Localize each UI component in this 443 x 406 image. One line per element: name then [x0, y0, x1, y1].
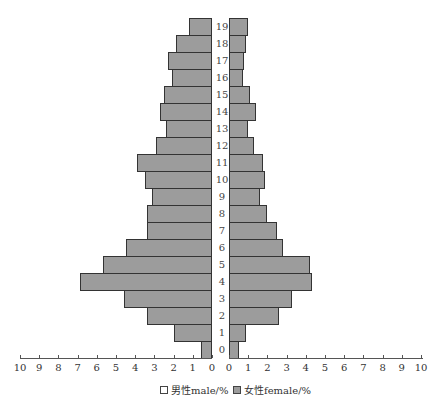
- bar-female: [229, 307, 279, 325]
- age-label: 0: [213, 344, 231, 355]
- x-tick-label: 1: [185, 362, 201, 373]
- x-tick-label: 6: [89, 362, 105, 373]
- x-tick-label: 7: [70, 362, 86, 373]
- x-tick-label: 7: [355, 362, 371, 373]
- x-axis-left: [20, 358, 212, 359]
- x-tick-label: 4: [127, 362, 143, 373]
- bar-male: [172, 69, 212, 87]
- x-tick-label: 2: [259, 362, 275, 373]
- x-tick-label: 10: [413, 362, 429, 373]
- age-label: 18: [213, 38, 231, 49]
- bar-female: [229, 290, 292, 308]
- bar-female: [229, 103, 256, 121]
- bar-male: [152, 188, 212, 206]
- legend-label-male: 男性male/%: [171, 382, 228, 397]
- x-tick-label: 0: [204, 362, 220, 373]
- x-tick: [39, 355, 40, 358]
- x-tick: [174, 355, 175, 358]
- age-label: 17: [213, 55, 231, 66]
- bar-female: [229, 188, 260, 206]
- age-label: 16: [213, 72, 231, 83]
- bar-male: [147, 205, 212, 223]
- x-tick: [421, 355, 422, 358]
- bar-female: [229, 35, 246, 53]
- bar-female: [229, 86, 250, 104]
- x-tick-label: 3: [146, 362, 162, 373]
- bar-male: [164, 86, 212, 104]
- age-label: 3: [213, 293, 231, 304]
- x-tick: [58, 355, 59, 358]
- x-tick: [116, 355, 117, 358]
- x-tick: [287, 355, 288, 358]
- x-tick-label: 8: [50, 362, 66, 373]
- x-tick: [97, 355, 98, 358]
- x-tick: [229, 355, 230, 358]
- bar-female: [229, 324, 246, 342]
- bar-female: [229, 52, 244, 70]
- x-tick-label: 9: [31, 362, 47, 373]
- bar-male: [126, 239, 212, 257]
- bar-male: [174, 324, 212, 342]
- x-tick: [212, 355, 213, 358]
- x-tick-label: 5: [317, 362, 333, 373]
- bar-male: [147, 307, 212, 325]
- x-tick: [383, 355, 384, 358]
- bar-female: [229, 239, 283, 257]
- age-label: 2: [213, 310, 231, 321]
- x-tick: [344, 355, 345, 358]
- age-label: 19: [213, 21, 231, 32]
- legend-item-female: 女性female/%: [233, 382, 311, 397]
- bar-male: [137, 154, 212, 172]
- age-label: 7: [213, 225, 231, 236]
- legend-swatch-female: [233, 386, 241, 394]
- x-tick-label: 10: [12, 362, 28, 373]
- bar-male: [201, 341, 212, 359]
- bar-male: [176, 35, 212, 53]
- age-label: 6: [213, 242, 231, 253]
- bar-male: [166, 120, 212, 138]
- age-label: 14: [213, 106, 231, 117]
- x-tick-label: 1: [240, 362, 256, 373]
- bar-female: [229, 171, 265, 189]
- x-tick: [135, 355, 136, 358]
- bar-female: [229, 205, 267, 223]
- bar-female: [229, 18, 248, 36]
- bar-female: [229, 137, 254, 155]
- bar-male: [124, 290, 212, 308]
- bar-female: [229, 256, 310, 274]
- x-tick-label: 9: [394, 362, 410, 373]
- x-tick: [154, 355, 155, 358]
- age-label: 11: [213, 157, 231, 168]
- bar-male: [145, 171, 212, 189]
- x-tick: [325, 355, 326, 358]
- bar-male: [103, 256, 212, 274]
- x-tick-label: 5: [108, 362, 124, 373]
- age-label: 12: [213, 140, 231, 151]
- bar-female: [229, 120, 248, 138]
- age-label: 9: [213, 191, 231, 202]
- bar-female: [229, 69, 243, 87]
- x-tick-label: 2: [166, 362, 182, 373]
- age-label: 10: [213, 174, 231, 185]
- x-tick: [306, 355, 307, 358]
- x-tick: [193, 355, 194, 358]
- age-label: 4: [213, 276, 231, 287]
- legend-item-male: 男性male/%: [160, 382, 228, 397]
- bar-female: [229, 154, 263, 172]
- bar-male: [189, 18, 212, 36]
- bar-male: [168, 52, 212, 70]
- x-tick: [402, 355, 403, 358]
- legend-label-female: 女性female/%: [244, 382, 311, 397]
- x-axis-right: [229, 358, 423, 359]
- population-pyramid-chart: 0123456789101112131415161718191098765432…: [0, 0, 443, 406]
- legend-swatch-male: [160, 386, 168, 394]
- bar-male: [147, 222, 212, 240]
- bar-male: [80, 273, 212, 291]
- bar-female: [229, 273, 312, 291]
- x-tick: [363, 355, 364, 358]
- x-tick-label: 8: [375, 362, 391, 373]
- age-label: 1: [213, 327, 231, 338]
- age-label: 8: [213, 208, 231, 219]
- bar-female: [229, 222, 277, 240]
- age-label: 13: [213, 123, 231, 134]
